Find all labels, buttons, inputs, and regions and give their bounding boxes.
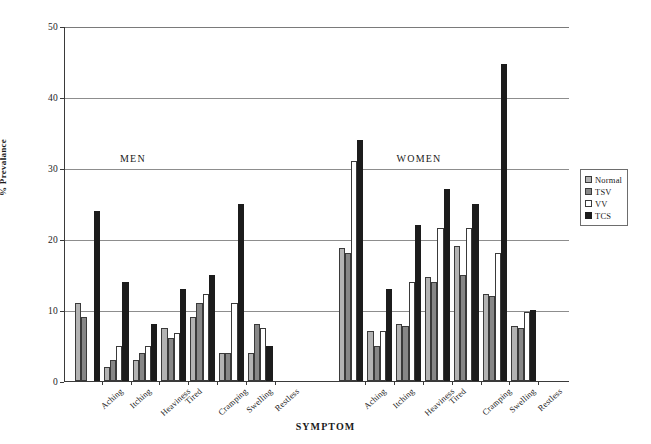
x-tick-men-2 <box>159 381 160 385</box>
legend-item-tsv: TSV <box>585 186 622 197</box>
bar-women-swelling-tcs <box>501 64 507 381</box>
bar-men-swelling-tcs <box>238 204 244 382</box>
category-label-women-cramping: Cramping <box>480 386 513 417</box>
x-tick-women-3 <box>452 381 453 385</box>
legend-label-normal: Normal <box>595 175 622 185</box>
legend-swatch-vv-icon <box>585 200 592 207</box>
y-tick-label-40: 40 <box>36 93 58 103</box>
x-tick-women-4 <box>481 381 482 385</box>
bar-group-men-itching <box>104 27 129 381</box>
legend-label-tsv: TSV <box>595 187 612 197</box>
bar-women-heaviness-tcs <box>415 225 421 381</box>
category-label-women-aching: Aching <box>362 386 388 411</box>
x-tick-women-6 <box>538 381 539 385</box>
y-tick-mark-0 <box>60 382 64 383</box>
category-label-men-itching: Itching <box>127 386 153 410</box>
prevalence-bar-chart: % Prevalance 01020304050 MEN WOMEN Achin… <box>0 0 651 444</box>
bar-women-restless-tcs <box>530 310 536 381</box>
chart-legend: Normal TSV VV TCS <box>580 169 628 226</box>
x-tick-women-2 <box>423 381 424 385</box>
bar-women-aching-tcs <box>357 140 363 381</box>
bar-women-cramping-tcs <box>472 204 478 382</box>
x-tick-women-0 <box>365 381 366 385</box>
x-tick-women-1 <box>394 381 395 385</box>
y-axis-title: % Prevalance <box>0 139 8 196</box>
bar-group-women-cramping <box>454 27 479 381</box>
bar-men-aching-tcs <box>94 211 100 381</box>
bar-group-women-swelling <box>483 27 508 381</box>
bar-group-men-swelling <box>219 27 244 381</box>
bar-group-men-restless <box>248 27 273 381</box>
x-tick-men-6 <box>275 381 276 385</box>
category-label-women-itching: Itching <box>391 386 417 410</box>
bar-men-cramping-tcs <box>209 275 215 382</box>
legend-swatch-tcs-icon <box>585 212 592 219</box>
bar-women-tired-tcs <box>444 189 450 381</box>
bar-group-men-cramping <box>190 27 215 381</box>
bar-group-men-heaviness <box>133 27 158 381</box>
section-caption-men: MEN <box>120 153 146 164</box>
legend-item-vv: VV <box>585 198 622 209</box>
legend-swatch-tsv-icon <box>585 188 592 195</box>
legend-label-tcs: TCS <box>595 211 611 221</box>
y-tick-label-20: 20 <box>36 235 58 245</box>
legend-item-normal: Normal <box>585 174 622 185</box>
bar-group-men-aching <box>75 27 100 381</box>
x-tick-men-3 <box>188 381 189 385</box>
x-tick-men-1 <box>131 381 132 385</box>
bar-men-tired-tcs <box>180 289 186 381</box>
category-label-men-swelling: Swelling <box>244 386 274 415</box>
y-tick-label-0: 0 <box>36 377 58 387</box>
x-tick-men-5 <box>246 381 247 385</box>
category-label-men-cramping: Cramping <box>216 386 249 417</box>
legend-label-vv: VV <box>595 199 608 209</box>
bar-men-restless-tcs <box>266 346 272 382</box>
bar-group-women-heaviness <box>396 27 421 381</box>
section-caption-women: WOMEN <box>397 153 442 164</box>
y-tick-label-10: 10 <box>36 306 58 316</box>
bar-group-women-aching <box>339 27 364 381</box>
bar-group-women-itching <box>367 27 392 381</box>
category-label-men-restless: Restless <box>272 386 301 413</box>
bar-women-itching-tcs <box>386 289 392 381</box>
legend-item-tcs: TCS <box>585 210 622 221</box>
category-label-men-aching: Aching <box>99 386 125 411</box>
category-label-women-restless: Restless <box>536 386 565 413</box>
category-label-women-swelling: Swelling <box>508 386 538 415</box>
bar-men-itching-tcs <box>122 282 128 381</box>
legend-swatch-normal-icon <box>585 176 592 183</box>
y-tick-label-50: 50 <box>36 22 58 32</box>
x-tick-men-4 <box>217 381 218 385</box>
bar-group-women-restless <box>511 27 536 381</box>
x-axis-title: SYMPTOM <box>0 421 651 432</box>
bar-group-women-tired <box>425 27 450 381</box>
bar-men-heaviness-tcs <box>151 324 157 381</box>
bar-men-aching-tsv <box>81 317 87 381</box>
plot-area: MEN WOMEN <box>64 27 569 382</box>
y-tick-label-30: 30 <box>36 164 58 174</box>
x-tick-women-5 <box>509 381 510 385</box>
bar-group-men-tired <box>161 27 186 381</box>
x-tick-men-0 <box>102 381 103 385</box>
